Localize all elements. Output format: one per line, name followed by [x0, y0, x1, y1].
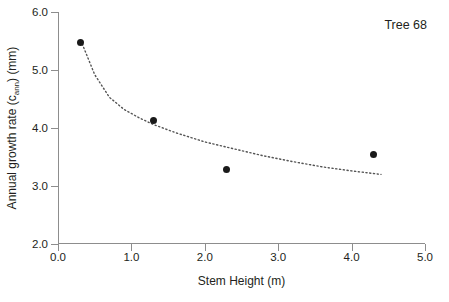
y-axis-tick: [51, 128, 58, 129]
x-axis-tick: [278, 244, 279, 251]
y-axis-title: Annual growth rate (cann) (mm): [2, 12, 22, 244]
data-point: [223, 166, 230, 173]
x-axis-tick-label: 2.0: [197, 251, 213, 263]
y-axis-tick-label: 3.0: [32, 180, 48, 192]
y-axis-title-subscript: ann: [12, 82, 21, 95]
x-axis-tick-label: 0.0: [50, 251, 66, 263]
plot-area: 2.03.04.05.06.0 0.01.02.03.04.05.0: [58, 12, 425, 244]
y-axis-title-tail: ) (mm): [5, 47, 19, 82]
trend-line: [58, 12, 425, 244]
y-axis-tick: [51, 186, 58, 187]
x-axis-tick: [58, 244, 59, 251]
y-axis-tick: [51, 12, 58, 13]
chart-container: Tree 68 Annual growth rate (cann) (mm) 2…: [0, 0, 449, 302]
x-axis-tick-label: 1.0: [123, 251, 139, 263]
y-axis-tick-label: 4.0: [32, 122, 48, 134]
y-axis-title-main: Annual growth rate (c: [5, 95, 19, 209]
y-axis-tick-label: 6.0: [32, 6, 48, 18]
x-axis-tick-label: 3.0: [270, 251, 286, 263]
y-axis-tick-label: 5.0: [32, 64, 48, 76]
y-axis-tick-label: 2.0: [32, 238, 48, 250]
y-axis-tick: [51, 70, 58, 71]
x-axis-title: Stem Height (m): [58, 274, 425, 288]
x-axis-tick: [425, 244, 426, 251]
x-axis-tick-label: 4.0: [344, 251, 360, 263]
data-point: [77, 39, 84, 46]
x-axis-tick: [352, 244, 353, 251]
x-axis-tick: [205, 244, 206, 251]
y-axis-tick: [51, 244, 58, 245]
x-axis-tick-label: 5.0: [417, 251, 433, 263]
data-point: [150, 117, 157, 124]
x-axis-tick: [131, 244, 132, 251]
